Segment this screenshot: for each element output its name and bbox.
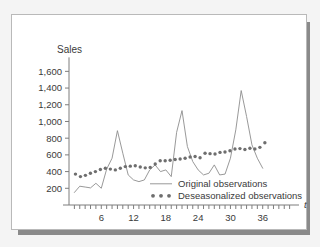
data-point-marker xyxy=(263,141,266,144)
data-point-marker xyxy=(109,167,112,170)
data-point-marker xyxy=(99,168,102,171)
data-point-marker xyxy=(119,167,122,170)
legend-dot-swatch xyxy=(167,194,171,198)
y-axis-tick-label: 200 xyxy=(46,183,62,194)
data-point-marker xyxy=(233,147,236,150)
y-axis-title: Sales xyxy=(57,44,82,55)
data-point-marker xyxy=(168,159,171,162)
data-point-marker xyxy=(104,167,107,170)
page-background: 2004006008001,0001,2001,4001,600Sales612… xyxy=(0,0,320,247)
data-point-marker xyxy=(89,172,92,175)
y-axis-tick-label: 600 xyxy=(46,149,62,160)
data-point-marker xyxy=(253,147,256,150)
legend-dot-swatch xyxy=(159,194,163,198)
data-point-marker xyxy=(248,147,251,150)
chart-legend: Original observationsDeseasonalized obse… xyxy=(150,178,302,201)
x-axis-tick-label: 18 xyxy=(161,212,172,223)
y-axis-tick-label: 1,600 xyxy=(38,66,62,77)
data-point-marker xyxy=(134,164,137,167)
sales-time-series-chart: 2004006008001,0001,2001,4001,600Sales612… xyxy=(12,15,308,231)
data-point-marker xyxy=(144,166,147,169)
data-point-marker xyxy=(183,157,186,160)
y-axis-tick-label: 400 xyxy=(46,166,62,177)
data-point-marker xyxy=(243,148,246,151)
data-point-marker xyxy=(178,157,181,160)
data-point-marker xyxy=(129,164,132,167)
data-point-marker xyxy=(163,159,166,162)
y-axis-tick-label: 800 xyxy=(46,133,62,144)
chart-plot-area: 2004006008001,0001,2001,4001,600Sales612… xyxy=(12,15,308,231)
data-point-marker xyxy=(74,172,77,175)
data-point-marker xyxy=(149,166,152,169)
data-point-marker xyxy=(124,165,127,168)
data-point-marker xyxy=(238,147,241,150)
figure-card: 2004006008001,0001,2001,4001,600Sales612… xyxy=(11,14,307,230)
data-point-marker xyxy=(213,152,216,155)
data-point-marker xyxy=(158,159,161,162)
legend-label-deseasonalized-observations: Deseasonalized observations xyxy=(178,190,302,201)
data-point-marker xyxy=(79,175,82,178)
data-point-marker xyxy=(84,174,87,177)
data-point-marker xyxy=(258,146,261,149)
y-axis-tick-label: 1,200 xyxy=(38,99,62,110)
x-axis-tick-label: 36 xyxy=(257,212,268,223)
data-point-marker xyxy=(223,150,226,153)
data-point-marker xyxy=(208,152,211,155)
data-point-marker xyxy=(114,168,117,171)
x-axis-tick-label: 24 xyxy=(193,212,204,223)
x-axis-variable-label: t xyxy=(304,199,307,210)
legend-dot-swatch xyxy=(151,194,155,198)
data-point-marker xyxy=(173,158,176,161)
legend-label-original-observations: Original observations xyxy=(178,178,267,189)
y-axis-tick-label: 1,000 xyxy=(38,116,62,127)
y-axis-tick-label: 1,400 xyxy=(38,82,62,93)
data-point-marker xyxy=(203,152,206,155)
data-point-marker xyxy=(228,149,231,152)
data-point-marker xyxy=(188,155,191,158)
x-axis-tick-label: 6 xyxy=(99,212,104,223)
x-axis-tick-label: 12 xyxy=(128,212,139,223)
data-point-marker xyxy=(94,170,97,173)
data-point-marker xyxy=(154,162,157,165)
x-axis-tick-label: 30 xyxy=(225,212,236,223)
data-point-marker xyxy=(139,165,142,168)
series-markers-deseasonalized-observations xyxy=(74,141,267,178)
data-point-marker xyxy=(193,155,196,158)
data-point-marker xyxy=(218,151,221,154)
data-point-marker xyxy=(198,156,201,159)
